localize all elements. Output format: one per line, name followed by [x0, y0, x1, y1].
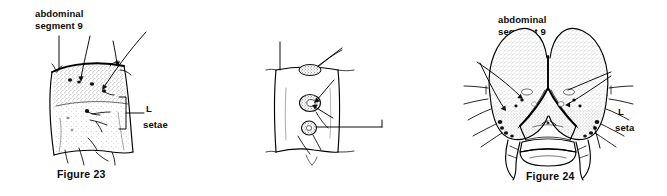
lateral-seta	[468, 109, 491, 120]
segment-fold-right	[330, 88, 331, 138]
seta-hair	[298, 136, 310, 154]
lateral-seta	[609, 99, 633, 104]
setal-base-faint	[67, 117, 70, 120]
stemma-dot	[500, 126, 504, 130]
figure-plate: abdominalsegment 9 L setae Figure 23	[0, 0, 667, 196]
lateral-seta	[473, 124, 496, 136]
segment-lower-stipple	[45, 100, 145, 160]
segment-posterior-right-ext	[338, 151, 354, 152]
antenna-left-joint	[510, 146, 519, 150]
seta-hair	[318, 50, 342, 67]
segment-posterior-left-ext	[266, 151, 276, 152]
figure-23-caption: Figure 23	[57, 168, 105, 180]
figure-23-panel: abdominalsegment 9 L setae Figure 23	[0, 0, 230, 196]
antenna-right-joint	[577, 146, 586, 150]
figure-24-panel: abdominalsegment 9 L seta Figure 24	[230, 0, 430, 196]
figure-23-label-l: L	[146, 103, 152, 115]
antenna-right-outer	[583, 140, 590, 178]
seta-hair	[313, 135, 321, 150]
posterior-notch-2	[312, 157, 317, 165]
leader-to-pinaculum-1	[318, 48, 342, 66]
seta-hair	[112, 152, 115, 165]
pale-area-right-lower	[558, 102, 564, 107]
segment-left-edge	[275, 70, 277, 152]
stemma-dot	[595, 120, 600, 124]
p-seta-base	[578, 105, 581, 108]
stemma-dot	[510, 134, 514, 137]
pale-area-left-lower	[531, 102, 536, 106]
head-lobe-right-stipple	[537, 20, 617, 150]
antenna-left-joint2	[508, 155, 516, 158]
stemma-dot	[589, 131, 593, 135]
lateral-seta	[464, 99, 488, 104]
leader-corner	[113, 41, 117, 63]
frons-setal-dot	[546, 122, 549, 124]
seta-hair	[96, 152, 108, 161]
setal-base	[90, 82, 94, 86]
stemma-dot	[583, 134, 587, 137]
antenna-right-joint2	[580, 155, 588, 158]
figure-25-drawing	[430, 0, 667, 196]
setal-base	[68, 78, 72, 81]
label-line-1: abdominal	[35, 8, 83, 19]
lateral-seta	[609, 86, 633, 88]
lateral-seta	[606, 109, 629, 120]
antenna-left-outer	[506, 140, 513, 178]
figure-23-label-setae: setae	[143, 119, 168, 131]
pale-area-left	[522, 89, 533, 95]
figure-24-drawing	[230, 0, 430, 196]
setal-base-faint	[71, 129, 74, 131]
setal-pinaculum-3-center	[306, 126, 311, 131]
labrum	[520, 149, 576, 166]
label-line-2: segment 9	[35, 20, 83, 31]
stemma-dot	[504, 131, 508, 135]
figure-23-label-abdominal-segment-9: abdominalsegment 9	[35, 8, 83, 31]
leader-to-pinaculum-2b	[315, 107, 333, 118]
p-seta-base	[520, 99, 523, 102]
lateral-seta	[481, 133, 502, 147]
lateral-seta	[601, 124, 624, 136]
p-seta-base	[514, 105, 517, 108]
labrum-fold	[530, 156, 566, 158]
lateral-seta	[464, 86, 488, 88]
segment-right-edge	[338, 70, 340, 152]
leader-to-pinaculum-2	[317, 80, 334, 100]
segment-anterior-margin-right-ext	[338, 70, 354, 71]
segment-fold-left	[285, 88, 286, 140]
figure-25-panel: P setae pale areas stemma Figure 25	[430, 0, 667, 196]
stemma-dot	[498, 120, 503, 124]
setal-base	[77, 81, 81, 84]
posterior-notch	[306, 155, 312, 165]
segment-anterior-margin-left-ext	[266, 69, 276, 70]
